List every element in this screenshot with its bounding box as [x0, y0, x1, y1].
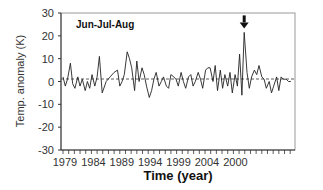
x-tick-label: 1989: [110, 156, 134, 168]
y-tick-label: 0: [48, 76, 54, 88]
y-tick-label: 30: [42, 7, 54, 19]
x-tick-label: 2000: [223, 156, 247, 168]
y-tick-label: -30: [38, 144, 54, 156]
y-axis-title: Temp. anomaly (K): [14, 35, 26, 127]
y-tick-label: 10: [42, 53, 54, 65]
x-axis-ticks: 1979198419891994199920042000: [53, 150, 290, 168]
x-tick-label: 1979: [53, 156, 77, 168]
x-tick-label: 2004: [195, 156, 219, 168]
x-axis-title: Time (year): [143, 168, 212, 183]
x-tick-label: 1984: [81, 156, 105, 168]
temperature-anomaly-chart: 3020100-10-20-30 19791984198919941999200…: [0, 0, 323, 190]
panel-title: Jun-Jul-Aug: [76, 19, 134, 30]
x-tick-label: 1999: [166, 156, 190, 168]
y-tick-label: -20: [38, 121, 54, 133]
y-tick-label: -10: [38, 98, 54, 110]
y-axis-ticks: 3020100-10-20-30: [38, 7, 61, 156]
x-tick-label: 1994: [138, 156, 162, 168]
y-tick-label: 20: [42, 30, 54, 42]
